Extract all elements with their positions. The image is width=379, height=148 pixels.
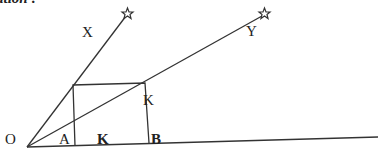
- ray-ox: [27, 16, 126, 147]
- label-o: O: [5, 131, 16, 147]
- label-k-bottom: K: [97, 131, 109, 147]
- geometry-diagram: ation : X Y K O A K B: [0, 0, 379, 148]
- label-b: B: [151, 131, 161, 147]
- label-y: Y: [246, 23, 257, 39]
- star-icon-x: [122, 8, 133, 19]
- label-x: X: [82, 24, 93, 40]
- label-k-side: K: [143, 92, 154, 108]
- caption-fragment: ation :: [0, 0, 36, 6]
- baseline-ray: [27, 137, 378, 147]
- ray-oy: [27, 16, 262, 147]
- label-a: A: [59, 131, 70, 147]
